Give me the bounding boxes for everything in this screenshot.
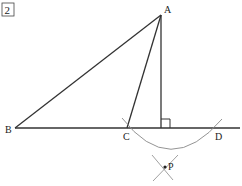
label-p: P [168,161,174,172]
label-a: A [164,4,172,15]
point-p-dot [163,165,166,168]
segment-ab [15,15,161,128]
label-d: D [215,131,222,142]
problem-number: 2 [5,4,11,16]
segment-ac [127,15,161,128]
label-c: C [123,131,130,142]
problem-number-box: 2 [2,3,14,16]
compass-arc-cd [122,118,222,149]
label-b: B [5,124,12,135]
right-angle-mark [161,119,170,128]
geometry-diagram: 2 A B C D P [0,0,242,186]
